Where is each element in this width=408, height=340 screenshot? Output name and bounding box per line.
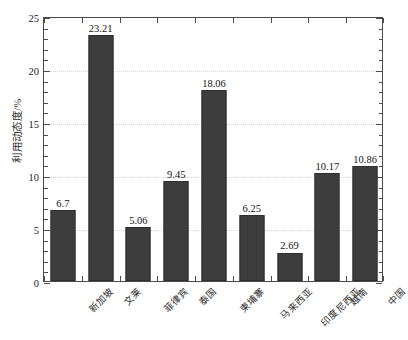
y-tick-label: 5 (34, 225, 39, 236)
bar-value-label: 18.06 (202, 78, 226, 89)
bar-value-label: 10.17 (316, 161, 340, 172)
bar-value-label: 9.45 (167, 169, 185, 180)
bar[interactable] (315, 173, 340, 281)
x-axis-category-label: 柬埔寨 (236, 284, 267, 315)
bar[interactable] (126, 227, 151, 281)
x-axis-category-label: 中国 (384, 284, 408, 308)
bar-slot: 9.45 (157, 18, 195, 281)
bar[interactable] (88, 35, 113, 281)
y-tick-label: 10 (29, 172, 40, 183)
y-tick-label: 25 (29, 13, 40, 24)
bar-value-label: 2.69 (280, 240, 298, 251)
plot-area: 0510152025 6.723.215.069.4518.066.252.69… (43, 17, 383, 282)
bars-group: 6.723.215.069.4518.066.252.6910.1710.86 (44, 18, 382, 281)
bar-value-label: 10.86 (353, 154, 377, 165)
y-tick-label: 15 (29, 119, 40, 130)
bar[interactable] (201, 90, 226, 281)
bar-slot: 6.7 (44, 18, 82, 281)
x-axis-category-label: 菲律宾 (160, 284, 191, 315)
bar-value-label: 6.7 (56, 198, 69, 209)
x-axis-category-label: 马来西亚 (276, 284, 314, 322)
bar-value-label: 23.21 (89, 23, 113, 34)
bar[interactable] (353, 166, 378, 281)
bar-slot: 23.21 (82, 18, 120, 281)
bar-value-label: 5.06 (129, 215, 147, 226)
bar-slot: 10.86 (346, 18, 384, 281)
y-tick-label: 0 (34, 278, 39, 289)
y-axis-title: 利用动态度/% (9, 76, 24, 186)
bar[interactable] (164, 181, 189, 281)
bar-slot: 6.25 (233, 18, 271, 281)
bar-slot: 5.06 (120, 18, 158, 281)
x-axis-category-label: 文莱 (120, 284, 144, 308)
bar[interactable] (239, 215, 264, 281)
x-axis-category-label: 新加坡 (85, 284, 116, 315)
y-tick-label: 20 (29, 66, 40, 77)
bar[interactable] (277, 253, 302, 282)
bar-slot: 18.06 (195, 18, 233, 281)
x-axis-category-label: 泰国 (195, 284, 219, 308)
bar-value-label: 6.25 (243, 203, 261, 214)
x-axis-labels: 新加坡文莱菲律宾泰国柬埔寨马来西亚印度尼西亚越南中国 (43, 284, 383, 340)
bar-slot: 10.17 (308, 18, 346, 281)
bar[interactable] (50, 210, 75, 281)
bar-slot: 2.69 (271, 18, 309, 281)
